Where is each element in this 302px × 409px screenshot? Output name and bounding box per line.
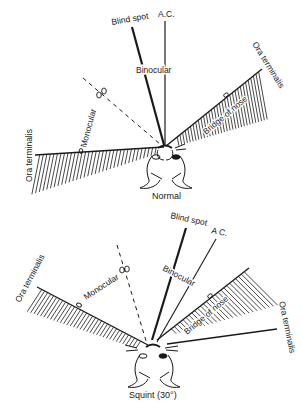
hatch-stroke	[36, 155, 44, 194]
hatch-stroke	[96, 323, 104, 335]
hatch-stroke	[27, 290, 41, 312]
monocular-line	[117, 245, 147, 344]
label-binocular: Binocular	[136, 65, 172, 75]
head-illustration-squint	[125, 345, 180, 388]
hatch-stroke	[227, 286, 253, 312]
hatch-stroke	[110, 329, 117, 340]
panel-squint: Blind spot A C. Binocular Monocular Ora …	[13, 210, 298, 400]
label-binocular: Binocular	[161, 263, 197, 289]
hatch-stroke	[103, 326, 110, 338]
hatch-stroke	[80, 315, 89, 330]
right-field-boundary	[166, 69, 262, 146]
eye-marker-dashed	[97, 88, 107, 98]
blind-spot-line	[132, 27, 164, 145]
hatch-stroke	[73, 312, 83, 328]
caption-squint: Squint (30°)	[129, 390, 177, 400]
hatch-stroke	[37, 294, 50, 315]
hatch-stroke	[144, 148, 146, 158]
hatch-stroke	[100, 324, 108, 336]
hatch-stroke	[230, 283, 257, 310]
hatch-stroke	[93, 321, 101, 334]
visual-field-diagram: Blind spot A.C. Binocular Monocular Ora …	[0, 0, 302, 409]
hatch-stroke	[136, 148, 138, 160]
hatch-stroke	[103, 150, 107, 171]
hatch-stroke	[183, 133, 185, 144]
hatch-stroke	[87, 318, 96, 332]
hatch-stroke	[118, 149, 121, 166]
label-monocular: Monocular	[78, 107, 98, 148]
hatch-stroke	[77, 152, 83, 180]
hatch-stroke	[113, 330, 120, 340]
hatch-stroke	[245, 272, 278, 305]
hatch-stroke	[129, 149, 132, 163]
eye-marker-dashed	[120, 266, 130, 273]
hatch-stroke	[47, 154, 54, 190]
hatch-stroke	[196, 122, 199, 139]
label-ora-right: Ora terminalis	[277, 300, 298, 354]
hatch-stroke	[106, 327, 113, 338]
hatch-stroke	[31, 291, 45, 312]
hatch-stroke	[62, 153, 68, 185]
hatch-stroke	[50, 154, 57, 189]
hatch-stroke	[151, 147, 153, 155]
eye-marker-right	[207, 293, 213, 299]
hatch-stroke	[188, 129, 190, 143]
hatch-stroke	[133, 340, 138, 347]
hatch-stroke	[77, 313, 87, 328]
hatch-stroke	[174, 327, 180, 333]
hatch-stroke	[190, 126, 193, 141]
hatch-stroke	[43, 154, 50, 191]
hatch-stroke	[54, 153, 61, 187]
hatch-stroke	[140, 148, 142, 159]
eye-marker-right	[223, 92, 229, 98]
label-ora-left: Ora terminalis	[24, 129, 34, 182]
hatch-stroke	[177, 137, 179, 146]
hatch-stroke	[185, 131, 187, 143]
label-ac: A.C.	[158, 9, 175, 19]
hatch-stroke	[171, 329, 176, 334]
hatch-stroke	[41, 296, 54, 316]
eye-marker-left	[76, 302, 82, 308]
hatch-stroke	[58, 153, 65, 186]
hatch-stroke	[90, 319, 99, 332]
hatch-stroke	[147, 148, 149, 157]
hatch-stroke	[114, 150, 118, 168]
hatch-stroke	[121, 149, 124, 165]
caption-normal: Normal	[152, 191, 181, 201]
panel-normal: Blind spot A.C. Binocular Monocular Ora …	[24, 9, 287, 201]
hatch-stroke	[106, 150, 110, 170]
hatch-stroke	[180, 135, 182, 145]
label-monocular: Monocular	[82, 272, 121, 302]
left-hatching	[32, 147, 156, 194]
hatch-stroke	[125, 149, 128, 164]
hatch-stroke	[132, 149, 135, 162]
hatch-stroke	[110, 150, 114, 169]
hatch-stroke	[73, 152, 79, 181]
hatch-stroke	[69, 153, 75, 183]
label-blind-spot: Blind spot	[111, 11, 150, 27]
hatch-stroke	[83, 316, 92, 330]
label-ora-right: Ora terminalis	[250, 40, 287, 90]
label-blind-spot: Blind spot	[170, 210, 209, 228]
right-hatching	[177, 72, 267, 146]
label-ac: A C.	[211, 225, 229, 238]
hatch-stroke	[65, 153, 71, 184]
head-illustration-normal	[140, 144, 192, 188]
hatch-stroke	[193, 124, 196, 140]
hatch-stroke	[242, 274, 274, 306]
hatch-stroke	[136, 341, 141, 348]
hatch-stroke	[34, 293, 48, 314]
hatch-stroke	[39, 154, 47, 192]
